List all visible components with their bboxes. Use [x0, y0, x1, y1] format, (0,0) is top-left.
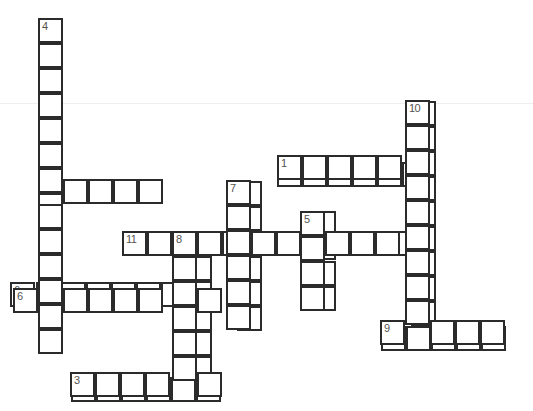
- crossword-cell-numbered-4[interactable]: 4: [38, 18, 63, 43]
- crossword-cell[interactable]: [300, 261, 325, 286]
- crossword-cell[interactable]: [300, 236, 325, 261]
- crossword-cell[interactable]: [120, 372, 145, 397]
- crossword-cell[interactable]: [300, 286, 325, 311]
- crossword-cell[interactable]: [38, 254, 63, 279]
- scanline-artifact: [0, 103, 533, 104]
- crossword-cell-numbered-6[interactable]: 6: [13, 288, 38, 313]
- crossword-cell-letter: [90, 181, 111, 202]
- crossword-cell[interactable]: [172, 331, 197, 356]
- crossword-cell-letter: [40, 281, 61, 302]
- crossword-cell[interactable]: [38, 204, 63, 229]
- crossword-cell[interactable]: [38, 329, 63, 354]
- crossword-cell-letter: [432, 322, 453, 343]
- crossword-cell[interactable]: [430, 320, 455, 345]
- crossword-cell[interactable]: [327, 155, 352, 180]
- crossword-cell[interactable]: [302, 155, 327, 180]
- crossword-cell[interactable]: [88, 179, 113, 204]
- crossword-cell-numbered-8[interactable]: 8: [172, 231, 197, 256]
- crossword-cell[interactable]: [147, 231, 172, 256]
- crossword-cell-numbered-1[interactable]: 1: [277, 155, 302, 180]
- crossword-cell[interactable]: [172, 306, 197, 331]
- crossword-cell[interactable]: [138, 288, 163, 313]
- crossword-cell[interactable]: [38, 143, 63, 168]
- crossword-cell-numbered-10[interactable]: 10: [405, 100, 430, 125]
- crossword-cell-letter: [65, 290, 86, 311]
- crossword-cell-letter: [40, 120, 61, 141]
- crossword-cell[interactable]: [480, 320, 505, 345]
- crossword-cell-letter: [199, 374, 220, 395]
- crossword-cell-letter: [174, 258, 195, 279]
- crossword-cell-letter: [124, 233, 145, 254]
- crossword-cell-letter: [173, 379, 194, 400]
- crossword-cell-letter: [40, 20, 61, 41]
- crossword-cell-numbered-3[interactable]: 3: [70, 372, 95, 397]
- crossword-cell-letter: [379, 157, 400, 178]
- crossword-cell[interactable]: [38, 279, 63, 304]
- crossword-cell[interactable]: [405, 175, 430, 200]
- crossword-cell[interactable]: [352, 155, 377, 180]
- crossword-cell[interactable]: [172, 281, 197, 306]
- crossword-cell-letter: [72, 374, 93, 395]
- crossword-cell-letter: [407, 277, 428, 298]
- crossword-cell-letter: [40, 231, 61, 252]
- crossword-cell[interactable]: [406, 326, 431, 351]
- crossword-cell-letter: [174, 358, 195, 379]
- crossword-cell[interactable]: [405, 200, 430, 225]
- crossword-cell-letter: [174, 333, 195, 354]
- crossword-cell[interactable]: [38, 118, 63, 143]
- crossword-cell[interactable]: [350, 231, 375, 256]
- crossword-cell[interactable]: [113, 179, 138, 204]
- crossword-cell-letter: [65, 181, 86, 202]
- crossword-cell[interactable]: [197, 288, 222, 313]
- crossword-cell[interactable]: [226, 230, 251, 255]
- crossword-cell-numbered-5[interactable]: 5: [300, 211, 325, 236]
- crossword-cell[interactable]: [145, 372, 170, 397]
- crossword-cell-letter: [457, 322, 478, 343]
- crossword-cell[interactable]: [226, 305, 251, 330]
- crossword-cell-letter: [40, 256, 61, 277]
- crossword-cell[interactable]: [405, 225, 430, 250]
- crossword-cell[interactable]: [197, 372, 222, 397]
- crossword-cell[interactable]: [405, 275, 430, 300]
- crossword-cell[interactable]: [251, 231, 276, 256]
- crossword-cell[interactable]: [377, 155, 402, 180]
- crossword-cell[interactable]: [38, 168, 63, 193]
- crossword-cell-letter: [407, 102, 428, 123]
- crossword-cell-letter: [329, 157, 350, 178]
- crossword-cell[interactable]: [38, 304, 63, 329]
- crossword-cell[interactable]: [405, 150, 430, 175]
- crossword-cell[interactable]: [375, 231, 400, 256]
- crossword-cell-letter: [174, 308, 195, 329]
- crossword-cell-letter: [228, 182, 249, 203]
- crossword-cell-letter: [228, 257, 249, 278]
- crossword-cell-letter: [174, 283, 195, 304]
- crossword-cell[interactable]: [197, 231, 222, 256]
- crossword-cell-numbered-7[interactable]: 7: [226, 180, 251, 205]
- crossword-cell-numbered-9[interactable]: 9: [380, 320, 405, 345]
- crossword-cell[interactable]: [38, 43, 63, 68]
- crossword-cell[interactable]: [172, 256, 197, 281]
- crossword-grid: 1234567891011810175693: [0, 0, 533, 411]
- crossword-cell[interactable]: [226, 205, 251, 230]
- crossword-cell-letter: [40, 45, 61, 66]
- crossword-cell[interactable]: [226, 255, 251, 280]
- crossword-cell[interactable]: [405, 125, 430, 150]
- crossword-cell-letter: [304, 157, 325, 178]
- crossword-cell[interactable]: [405, 300, 430, 325]
- crossword-cell[interactable]: [88, 288, 113, 313]
- crossword-cell[interactable]: [172, 356, 197, 381]
- crossword-cell[interactable]: [276, 231, 301, 256]
- crossword-cell[interactable]: [226, 280, 251, 305]
- crossword-cell[interactable]: [325, 231, 350, 256]
- crossword-cell[interactable]: [113, 288, 138, 313]
- crossword-cell[interactable]: [63, 288, 88, 313]
- crossword-cell[interactable]: [95, 372, 120, 397]
- crossword-cell[interactable]: [38, 93, 63, 118]
- crossword-cell[interactable]: [38, 229, 63, 254]
- crossword-cell[interactable]: [405, 250, 430, 275]
- crossword-cell[interactable]: [63, 179, 88, 204]
- crossword-cell[interactable]: [455, 320, 480, 345]
- crossword-cell[interactable]: [38, 68, 63, 93]
- crossword-cell-numbered-11[interactable]: 11: [122, 231, 147, 256]
- crossword-cell[interactable]: [138, 179, 163, 204]
